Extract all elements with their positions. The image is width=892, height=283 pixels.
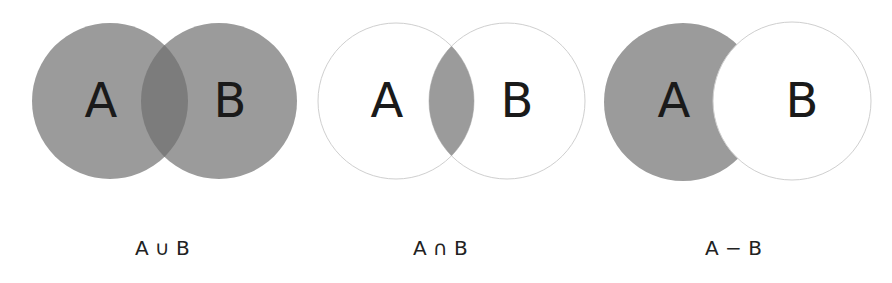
set-a-label: A (85, 72, 118, 128)
intersection-caption: A ∩ B (413, 236, 468, 260)
set-a-label: A (658, 72, 691, 128)
difference-diagram: A B (604, 22, 871, 181)
union-diagram: A B (32, 23, 297, 179)
set-b-label: B (214, 72, 247, 128)
difference-caption: A − B (705, 236, 762, 260)
set-a-label: A (371, 72, 404, 128)
set-b-label: B (501, 72, 534, 128)
set-b-label: B (786, 72, 819, 128)
intersection-diagram: A B (318, 23, 585, 179)
union-caption: A ∪ B (135, 236, 190, 260)
